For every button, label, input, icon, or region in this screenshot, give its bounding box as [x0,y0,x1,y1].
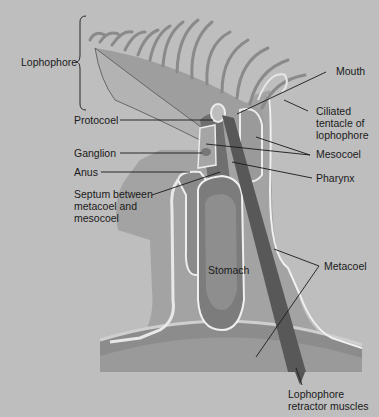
ganglion-region [198,125,216,168]
label-stomach: Stomach [208,264,249,276]
ganglion [201,148,211,156]
label-ciliated-tentacle: Ciliated tentacle of lophophore [316,105,369,141]
label-protocoel: Protocoel [74,114,118,126]
protocoel [211,104,225,122]
mouth-leader [237,72,326,114]
label-ganglion: Ganglion [74,147,116,159]
lophophore-diagram: Lophophore Protocoel Ganglion Anus Septu… [0,0,379,417]
lophophore-bracket [76,16,86,110]
label-retractor-muscles: Lophophore retractor muscles [288,388,369,412]
ciliated-tentacle-leader [284,100,308,111]
label-mesocoel: Mesocoel [316,148,361,160]
label-pharynx: Pharynx [316,172,355,184]
label-septum: Septum between metacoel and mesocoel [74,188,153,224]
label-metacoel: Metacoel [324,260,367,272]
label-lophophore: Lophophore [21,56,77,68]
label-mouth: Mouth [336,65,365,77]
label-anus: Anus [74,166,98,178]
